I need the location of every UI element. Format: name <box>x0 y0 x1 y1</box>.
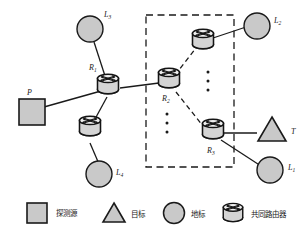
dashed-edges <box>175 48 203 126</box>
legend: 探测源 目标 地标 共同路由器 <box>27 203 287 224</box>
dashed-region-box <box>146 15 234 167</box>
node-router-R3 <box>203 119 224 139</box>
node-target <box>258 117 286 141</box>
edge-r1-rb <box>95 97 107 119</box>
edge-r1-r2 <box>120 83 159 88</box>
node-landmark-L4 <box>86 161 112 187</box>
legend-square-icon <box>27 203 47 223</box>
ellipsis-dots-left <box>166 113 169 134</box>
node-router-R2 <box>159 68 180 88</box>
legend-label-target: 目标 <box>131 209 146 219</box>
label-landmark-L3: L3 <box>103 10 111 20</box>
node-probe-source <box>19 99 45 125</box>
legend-label-probe-source: 探测源 <box>56 208 78 218</box>
node-router-R1 <box>98 74 119 94</box>
label-router-R2: R2 <box>161 94 170 104</box>
legend-router-icon <box>223 203 243 221</box>
legend-circle-icon <box>164 203 185 224</box>
network-topology-diagram: P T L3 L2 L1 L4 R1 R2 R3 探测源 目标 地标 共同路由器 <box>0 0 306 244</box>
label-router-R1: R1 <box>88 63 97 73</box>
edge-p-r1 <box>44 91 101 107</box>
node-landmark-L1 <box>257 157 283 183</box>
label-router-R3: R3 <box>206 146 215 156</box>
node-router-Ra <box>193 29 214 49</box>
edge-l3-r1 <box>94 42 106 79</box>
edge-ra-l2 <box>213 27 246 38</box>
node-landmark-L2 <box>244 13 270 39</box>
figure-canvas: P T L3 L2 L1 L4 R1 R2 R3 探测源 目标 地标 共同路由器 <box>0 0 306 244</box>
edge-r2-r3 <box>176 92 203 126</box>
legend-label-landmark: 地标 <box>191 209 206 219</box>
legend-label-common-router: 共同路由器 <box>251 209 287 219</box>
label-probe-source: P <box>26 88 32 97</box>
solid-edges <box>44 27 261 166</box>
label-target: T <box>291 127 296 136</box>
edge-r3-l1 <box>221 140 261 166</box>
label-landmark-L2: L2 <box>273 16 281 26</box>
label-landmark-L4: L4 <box>115 168 123 178</box>
ellipsis-dots-right <box>207 71 210 92</box>
label-landmark-L1: L1 <box>287 163 295 173</box>
legend-triangle-icon <box>103 203 125 222</box>
node-router-Rb <box>80 116 101 136</box>
node-landmark-L3 <box>77 16 103 42</box>
